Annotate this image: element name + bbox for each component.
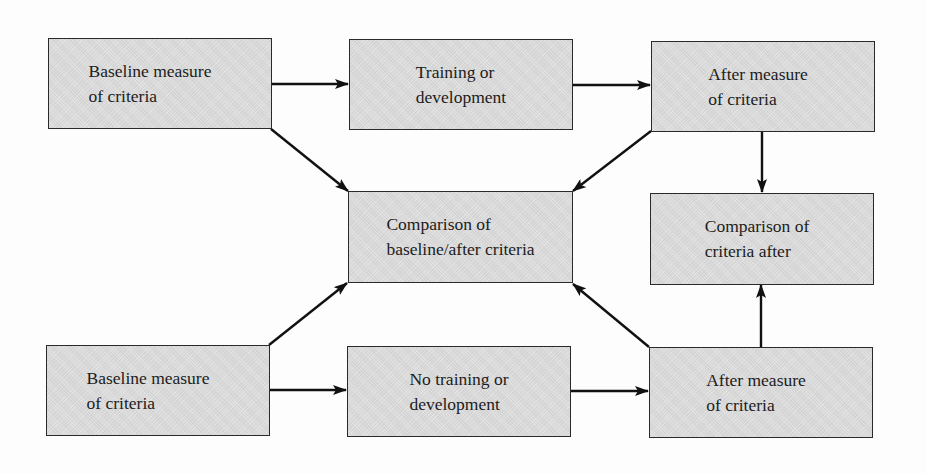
node-label-line1: After measure [706,368,806,393]
node-label-line1: Comparison of [386,212,534,237]
node-comparison-criteria-after: Comparison of criteria after [650,193,874,285]
node-label-line2: development [409,392,508,417]
flowchart-canvas: Baseline measure of criteria Training or… [0,0,926,474]
node-label: Baseline measure of criteria [87,366,210,416]
node-label: Baseline measure of criteria [89,59,212,109]
node-label-line2: baseline/after criteria [386,237,534,262]
node-label: After measure of criteria [708,62,808,112]
node-label: No training or development [409,367,508,417]
node-label-line1: After measure [708,62,808,87]
node-label-line2: development [416,85,506,110]
node-bottom-baseline-measure: Baseline measure of criteria [46,345,270,436]
node-label-line2: of criteria [706,393,806,418]
node-label-line2: of criteria [89,84,212,109]
node-top-baseline-measure: Baseline measure of criteria [48,38,272,129]
node-label-line2: criteria after [705,239,810,264]
node-training-or-development: Training or development [349,39,573,130]
node-label: Comparison of criteria after [705,214,810,264]
arrow-bottom-after-to-comparison [573,284,649,347]
node-label-line2: of criteria [87,391,210,416]
node-label: Comparison of baseline/after criteria [386,212,534,262]
node-label-line1: No training or [409,367,508,392]
arrow-top-after-to-comparison [573,131,651,191]
arrow-bottom-baseline-to-comparison [269,283,347,345]
node-no-training-or-development: No training or development [347,346,571,437]
node-comparison-baseline-after: Comparison of baseline/after criteria [348,191,573,283]
node-label-line1: Comparison of [705,214,810,239]
node-label-line1: Baseline measure [89,59,212,84]
node-label-line1: Baseline measure [87,366,210,391]
node-bottom-after-measure: After measure of criteria [649,347,873,438]
node-label-line2: of criteria [708,87,808,112]
node-top-after-measure: After measure of criteria [651,41,875,132]
arrow-top-baseline-to-comparison [271,129,348,191]
node-label: After measure of criteria [706,368,806,418]
node-label-line1: Training or [416,60,506,85]
node-label: Training or development [416,60,506,110]
